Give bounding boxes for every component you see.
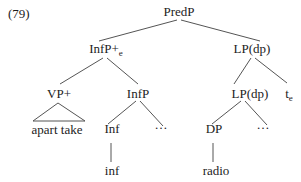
node-dp: DP: [206, 122, 223, 136]
node-lp-inner: LP(dp): [232, 87, 269, 101]
edge-predp-lp: [181, 20, 260, 41]
node-lp-top: LP(dp): [234, 42, 271, 56]
edge-lp-trace: [255, 58, 287, 83]
leaf-inf: inf: [105, 164, 119, 178]
edge-predp-infp: [99, 20, 177, 41]
node-predp: PredP: [163, 5, 194, 19]
vp-triangle: [33, 103, 85, 121]
edge-infpplus-vp: [60, 58, 103, 84]
syntax-tree-figure: (79) PredP InfP+e LP(dp) VP+ InfP LP(dp)…: [0, 0, 301, 182]
node-inf-head: Inf: [104, 122, 119, 136]
node-infp-plus: InfP+e: [89, 42, 123, 58]
node-infp: InfP: [127, 87, 149, 101]
node-infp-plus-label: InfP+: [89, 41, 119, 56]
ellipsis-mid: …: [155, 118, 170, 132]
node-trace-subscript: e: [289, 93, 293, 103]
node-vp-plus: VP+: [47, 87, 71, 101]
ellipsis-right: …: [257, 118, 272, 132]
leaf-apart-take: apart take: [32, 123, 83, 137]
figure-number: (79): [8, 6, 30, 22]
node-infp-plus-subscript: e: [119, 48, 123, 58]
edge-lp-lpinner: [234, 58, 251, 84]
leaf-radio: radio: [203, 164, 230, 178]
edge-infpplus-infp: [107, 58, 138, 84]
node-trace: te: [285, 87, 293, 103]
